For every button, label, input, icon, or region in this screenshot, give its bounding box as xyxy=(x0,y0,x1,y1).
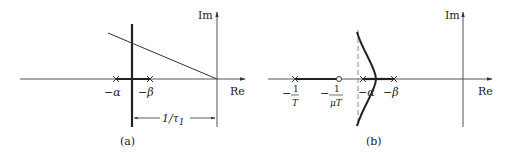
re-label-a: Re xyxy=(230,85,245,98)
pole-label-alpha-a: −α xyxy=(104,86,121,99)
svg-text:T: T xyxy=(292,98,299,108)
asymptote-line-a xyxy=(108,33,217,79)
pole-label-T-b: − 1 T xyxy=(282,84,299,108)
zero-label-b: − 1 μT xyxy=(320,84,343,108)
pole-label-beta-a: −β xyxy=(138,86,154,99)
dimension-label-a: 1/τ1 xyxy=(162,112,185,127)
svg-text:1: 1 xyxy=(334,84,340,94)
caption-b: (b) xyxy=(366,135,382,148)
caption-a: (a) xyxy=(120,135,135,148)
panel-a: −α −β Re Im 1/τ1 (a) xyxy=(20,9,245,148)
root-locus-figure: −α −β Re Im 1/τ1 (a) − 1 xyxy=(0,0,505,155)
im-label-b: Im xyxy=(445,9,460,22)
svg-text:1: 1 xyxy=(293,84,299,94)
pole-label-beta-b: −β xyxy=(383,86,399,99)
zero-marker-b xyxy=(337,77,342,82)
pole-label-alpha-b: −α xyxy=(358,86,375,99)
svg-text:−: − xyxy=(282,87,291,100)
svg-text:μT: μT xyxy=(330,98,343,108)
svg-text:−: − xyxy=(320,87,329,100)
re-label-b: Re xyxy=(478,85,493,98)
panel-b: − 1 T − 1 μT −α −β Re Im (b) xyxy=(268,9,493,148)
im-label-a: Im xyxy=(198,9,213,22)
